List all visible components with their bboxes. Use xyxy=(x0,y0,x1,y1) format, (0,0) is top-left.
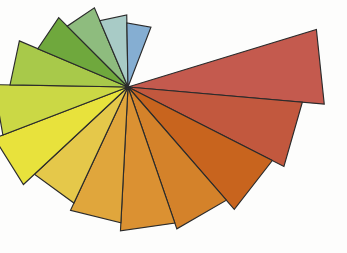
wedge-layer xyxy=(0,8,324,231)
wedge-steel-blue xyxy=(127,23,151,87)
rose-chart-figure xyxy=(0,0,347,253)
polar-area-chart xyxy=(0,0,347,253)
